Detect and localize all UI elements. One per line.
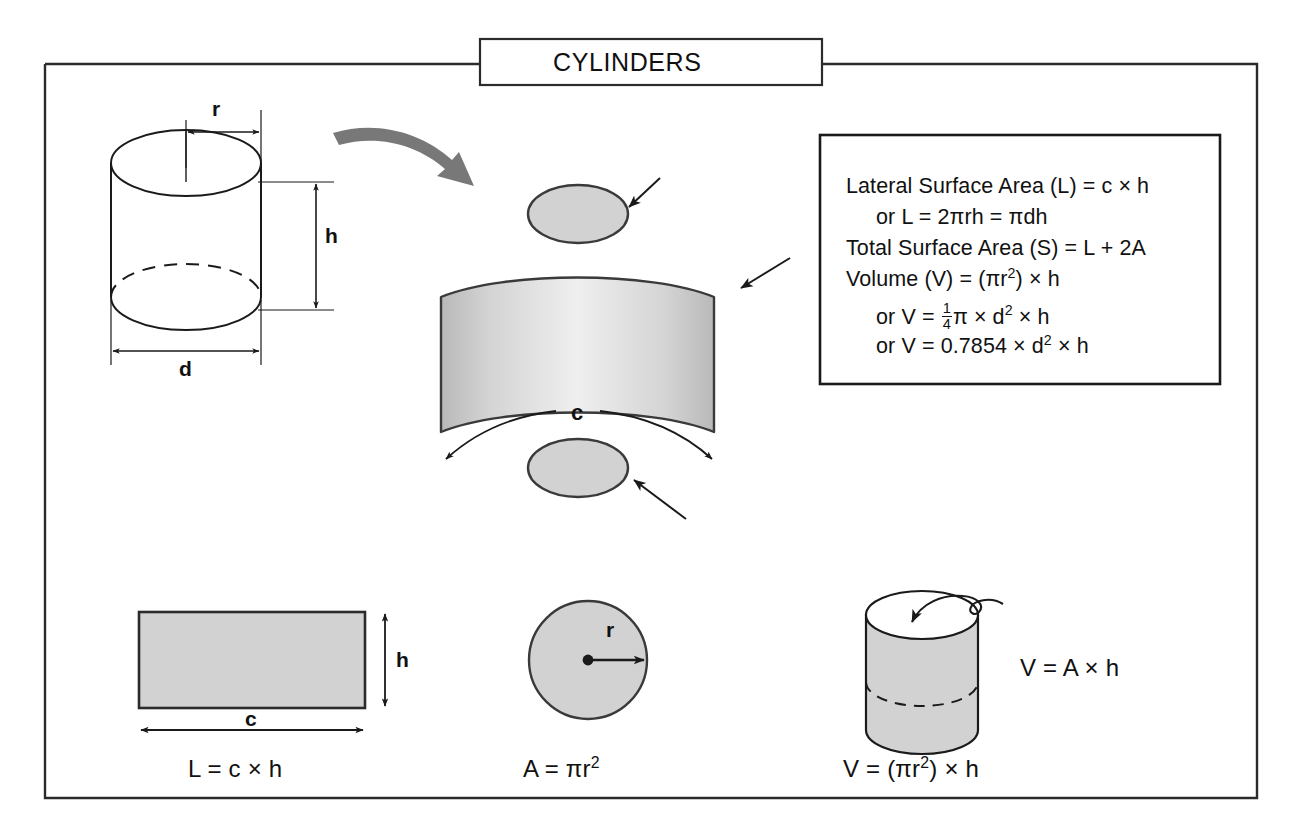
lateral-rectangle-figure	[139, 612, 385, 730]
diagram-canvas: CYLINDERS Lateral Surface Area (L) = c ×…	[0, 0, 1297, 833]
band-pointer-arrow	[741, 258, 790, 288]
wireframe-cylinder	[111, 110, 334, 365]
top-cap-pointer-arrow	[629, 178, 660, 207]
explode-arrow-icon	[333, 128, 474, 186]
radius-dimension-label: r	[212, 98, 220, 119]
circle-radius-label: r	[606, 619, 614, 640]
caption-base-area: A = πr2	[523, 757, 600, 781]
height-dimension-label: h	[325, 225, 338, 246]
circumference-label: c	[571, 402, 583, 424]
formula-volume-alt-fraction: or V = 14π × d2 × h	[876, 302, 1050, 334]
base-circle-figure	[529, 601, 647, 719]
formula-lateral-alt: or L = 2πrh = πdh	[876, 207, 1048, 229]
page-title: CYLINDERS	[553, 50, 702, 75]
caption-lateral-surface: L = c × h	[188, 757, 282, 781]
formula-total-surface-area: Total Surface Area (S) = L + 2A	[846, 238, 1146, 260]
exploded-bottom-cap	[528, 439, 628, 497]
formula-volume: Volume (V) = (πr2) × h	[846, 269, 1060, 291]
formula-volume-alt-decimal: or V = 0.7854 × d2 × h	[876, 336, 1089, 358]
bottom-cap-pointer-arrow	[634, 480, 686, 519]
diameter-dimension-label: d	[179, 358, 192, 379]
volume-cylinder-figure	[866, 591, 1003, 754]
formula-lateral-surface-area: Lateral Surface Area (L) = c × h	[846, 176, 1149, 198]
diagram-vector-layer	[0, 0, 1297, 833]
rectangle-height-label: h	[396, 649, 409, 670]
caption-volume-area-times-height: V = A × h	[1020, 656, 1119, 680]
exploded-top-cap	[528, 185, 628, 243]
rectangle-width-label: c	[245, 708, 257, 729]
caption-volume: V = (πr2) × h	[843, 757, 979, 781]
